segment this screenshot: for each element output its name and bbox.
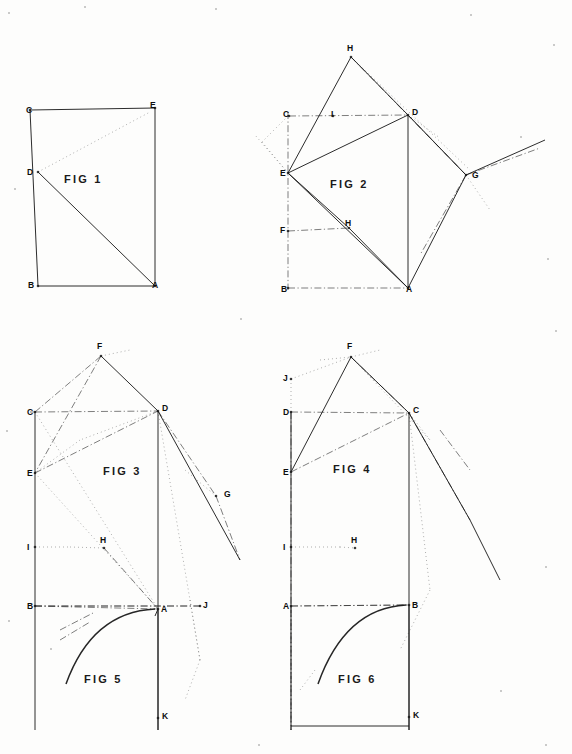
fig4-vertex-f-0	[350, 356, 353, 359]
fig2-point-label-h-7: H	[345, 219, 351, 228]
fig2-dotted-line-5	[466, 175, 490, 210]
fig4-point-label-e-4: E	[283, 468, 289, 477]
figure-caption-fig4: FIG 4	[333, 463, 372, 475]
fig2-dashdot-line-1	[289, 115, 408, 116]
fig2-solid-line-6	[349, 228, 408, 288]
fig3-vertex-f-0	[100, 355, 103, 358]
fig4-vertex-j-1	[290, 378, 293, 381]
fig2-point-label-g-5: G	[472, 171, 479, 180]
fig2-point-label-c-1: C	[283, 110, 289, 119]
figure-caption-fig1: FIG 1	[64, 173, 103, 185]
fig2-dotted-line-2	[262, 116, 288, 142]
fig4-point-label-f-0: F	[347, 342, 352, 351]
fig1-point-label-a-4: A	[152, 281, 158, 290]
scan-speck-2	[215, 8, 217, 10]
fig2-vertex-h-0	[350, 56, 353, 59]
fig2-vertex-g-5	[465, 174, 468, 177]
fig1-solid-line-0	[30, 108, 155, 110]
fig2-solid-line-0	[288, 115, 408, 173]
fig1-point-label-d-2: D	[27, 168, 33, 177]
scan-speck-11	[545, 566, 547, 568]
fig4-vertex-e-4	[290, 471, 293, 474]
scan-speck-10	[500, 690, 502, 692]
fig4-vertex-h-6	[354, 547, 357, 550]
fig2-solid-line-3	[288, 57, 351, 173]
fig1-point-label-b-3: B	[28, 281, 34, 290]
fig6-point-label-k-2: K	[413, 711, 419, 720]
fig6-point-label-a-0: A	[283, 602, 289, 611]
fig4-dotted-line-2	[351, 357, 409, 413]
fig2-dashdot-line-5	[420, 175, 466, 255]
fig5-vertex-k-2	[157, 717, 160, 720]
fig4-dashdot-line-6	[440, 430, 470, 470]
fig3-dashdot-line-0	[35, 411, 158, 412]
fig1-point-label-e-1: E	[150, 101, 156, 110]
fig4-vertex-c-3	[408, 412, 411, 415]
drawing-sheet: FIG 1FIG 2FIG 3FIG 4FIG 5FIG 6 CEDBAHCID…	[0, 0, 572, 754]
fig3-dotted-line-8	[80, 411, 158, 440]
fig4-dotted-line-10	[320, 357, 351, 360]
fig3-point-label-g-4: G	[224, 490, 231, 499]
fig1-vertex-d-2	[37, 171, 40, 174]
figure-caption-fig2: FIG 2	[330, 178, 369, 190]
fig2-dashdot-line-3	[288, 228, 349, 231]
scan-speck-16	[555, 330, 557, 332]
fig1-point-label-c-0: C	[26, 106, 32, 115]
fig3-vertex-c-1	[34, 411, 37, 414]
fig1-solid-line-4	[38, 172, 155, 286]
fig4-dotted-line-8	[409, 413, 430, 590]
fig5-point-label-b-0: B	[27, 602, 33, 611]
fig6-dotted-line-0	[300, 670, 315, 690]
fig2-vertex-e-4	[287, 172, 290, 175]
fig3-dashdot-line-8	[60, 612, 95, 630]
fig2-point-label-a-9: A	[406, 285, 412, 294]
fig5-point-label-a-1: A	[161, 605, 167, 614]
fig4-dashdot-line-0	[291, 412, 409, 413]
fig3-dotted-line-2	[101, 350, 130, 356]
fig4-dotted-line-0	[291, 357, 351, 379]
fig4-dotted-line-7	[351, 350, 380, 357]
fig3-dotted-line-6	[70, 547, 104, 548]
fig3-point-label-i-5: I	[27, 543, 29, 552]
fig5-vertex-b-0	[34, 605, 37, 608]
fig4-vertex-i-5	[290, 546, 293, 549]
fig3-vertex-h-6	[103, 547, 106, 550]
fig3-dashdot-line-7	[216, 496, 240, 560]
fig3-dashdot-line-5	[104, 548, 158, 609]
figure-caption-fig6: FIG 6	[338, 673, 377, 685]
fig3-point-label-j-7: J	[203, 601, 208, 610]
fig2-solid-line-8	[408, 175, 466, 288]
fig6-point-label-b-1: B	[412, 601, 418, 610]
fig3-point-label-c-1: C	[27, 408, 33, 417]
fig5-dotted-line-0	[190, 600, 200, 660]
fig2-point-label-b-8: B	[281, 285, 287, 294]
fig6-vertex-a-0	[290, 605, 293, 608]
fig3-point-label-d-2: D	[162, 404, 168, 413]
fig5-point-label-k-2: K	[162, 712, 168, 721]
fig2-point-label-h-0: H	[347, 44, 353, 53]
fig3-dashdot-line-6	[158, 411, 216, 496]
fig4-solid-line-2	[291, 357, 351, 472]
fig3-vertex-g-4	[215, 495, 218, 498]
fig3-point-label-f-0: F	[97, 342, 102, 351]
fig2-point-label-d-3: D	[412, 108, 418, 117]
fig4-dotted-line-9	[400, 590, 430, 650]
fig3-vertex-e-3	[34, 472, 37, 475]
scan-speck-3	[470, 14, 472, 16]
fig5-vertex-a-1	[157, 608, 160, 611]
fig1-dotted-line-0	[38, 112, 150, 172]
figure-caption-fig3: FIG 3	[103, 465, 142, 477]
fig3-vertex-d-2	[157, 410, 160, 413]
scan-speck-4	[553, 44, 555, 46]
fig5-dashdot-line-0	[35, 606, 158, 609]
fig4-point-label-i-5: I	[283, 543, 285, 552]
fig2-vertex-f-6	[287, 230, 290, 233]
scan-speck-14	[6, 430, 8, 432]
scan-speck-13	[258, 744, 260, 746]
fig1-solid-line-1	[30, 110, 38, 286]
scan-speck-6	[547, 258, 549, 260]
fig3-dotted-line-4	[190, 600, 200, 660]
scan-speck-8	[8, 620, 10, 622]
fig3-dashdot-line-2	[35, 356, 101, 412]
fig4-point-label-c-3: C	[413, 406, 419, 415]
